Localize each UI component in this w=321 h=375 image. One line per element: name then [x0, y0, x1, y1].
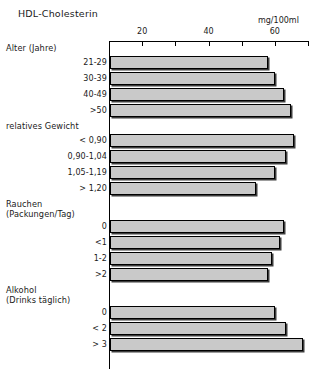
chart-row: > 1,20 [0, 181, 321, 197]
x-axis-tick-label: 40 [203, 27, 213, 36]
chart-title: HDL-Cholesterin [18, 8, 98, 19]
chart-row: 0,90-1,04 [0, 149, 321, 165]
bar [110, 306, 275, 319]
category-label: < 2 [2, 324, 107, 333]
group-heading: Alkohol [6, 285, 37, 295]
category-label: 0 [2, 222, 107, 231]
category-label: 1-2 [2, 254, 107, 263]
x-axis-tick-label: 20 [137, 27, 147, 36]
x-axis-tick [242, 41, 243, 46]
chart-row: 21-29 [0, 55, 321, 71]
x-axis-tick [109, 41, 110, 46]
hdl-cholesterol-chart: HDL-Cholesterin mg/100ml 204060 Alter (J… [0, 0, 321, 375]
chart-row: < 2 [0, 321, 321, 337]
bar [110, 72, 275, 85]
x-axis-tick [308, 41, 309, 46]
x-axis-tick [209, 41, 210, 46]
bar [110, 268, 268, 281]
category-label: >2 [2, 270, 107, 279]
bar [110, 88, 284, 101]
bar [110, 150, 286, 163]
bar [110, 252, 272, 265]
category-label: >50 [2, 106, 107, 115]
category-label: 40-49 [2, 90, 107, 99]
chart-row: 0 [0, 219, 321, 235]
bar [110, 338, 303, 351]
bar [110, 236, 280, 249]
group-subheading: (Drinks täglich) [6, 295, 70, 305]
bar [110, 104, 291, 117]
chart-row: 1,05-1,19 [0, 165, 321, 181]
category-label: > 3 [2, 340, 107, 349]
chart-row: > 3 [0, 337, 321, 353]
category-label: 21-29 [2, 58, 107, 67]
chart-row: >2 [0, 267, 321, 283]
category-label: 30-39 [2, 74, 107, 83]
bar [110, 322, 286, 335]
category-label: < 0,90 [2, 136, 107, 145]
group-heading: Alter (Jahre) [6, 43, 57, 53]
group-heading: relatives Gewicht [6, 121, 79, 131]
bar [110, 56, 268, 69]
category-label: <1 [2, 238, 107, 247]
chart-row: 40-49 [0, 87, 321, 103]
chart-row: < 0,90 [0, 133, 321, 149]
x-axis-tick-label: 60 [270, 27, 280, 36]
bar [110, 134, 294, 147]
group-heading: Rauchen [6, 199, 42, 209]
chart-row: 1-2 [0, 251, 321, 267]
axis-unit-label: mg/100ml [258, 16, 299, 25]
bar [110, 182, 256, 195]
x-axis-tick [142, 41, 143, 46]
category-label: 0,90-1,04 [2, 152, 107, 161]
group-subheading: (Packungen/Tag) [6, 209, 75, 219]
chart-row: 0 [0, 305, 321, 321]
bar [110, 220, 284, 233]
category-label: 0 [2, 308, 107, 317]
chart-row: >50 [0, 103, 321, 119]
bar [110, 166, 275, 179]
x-axis-tick [275, 41, 276, 46]
x-axis-tick [175, 41, 176, 46]
category-label: > 1,20 [2, 184, 107, 193]
category-label: 1,05-1,19 [2, 168, 107, 177]
chart-row: <1 [0, 235, 321, 251]
chart-row: 30-39 [0, 71, 321, 87]
